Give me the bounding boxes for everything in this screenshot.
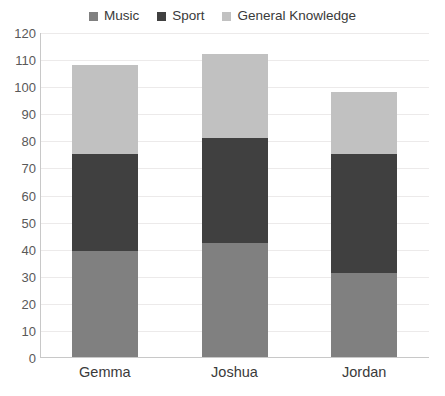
- y-tick-label: 40: [22, 242, 36, 257]
- y-tick-label: 10: [22, 323, 36, 338]
- bars-layer: [40, 33, 429, 357]
- legend-swatch-general-knowledge-icon: [222, 12, 231, 21]
- legend-item-general-knowledge[interactable]: General Knowledge: [222, 9, 356, 23]
- legend-label-music: Music: [104, 9, 139, 23]
- y-tick-label: 70: [22, 161, 36, 176]
- bar-segment-jordan-general-knowledge[interactable]: [331, 92, 397, 154]
- bar-group-gemma[interactable]: [72, 33, 138, 357]
- legend-swatch-sport-icon: [157, 12, 166, 21]
- bar-segment-joshua-music[interactable]: [202, 243, 268, 357]
- y-tick-label: 100: [14, 80, 36, 95]
- legend-item-music[interactable]: Music: [89, 9, 139, 23]
- y-tick-label: 110: [15, 53, 36, 68]
- y-tick-label: 50: [22, 215, 36, 230]
- x-tick-label-joshua: Joshua: [211, 364, 258, 380]
- bar-group-joshua[interactable]: [202, 33, 268, 357]
- bar-segment-jordan-sport[interactable]: [331, 154, 397, 273]
- bar-stack: [331, 92, 397, 357]
- legend-label-sport: Sport: [172, 9, 204, 23]
- y-tick-label: 60: [22, 188, 36, 203]
- bar-segment-gemma-sport[interactable]: [72, 154, 138, 252]
- chart-legend: Music Sport General Knowledge: [0, 4, 445, 28]
- legend-swatch-music-icon: [89, 12, 98, 21]
- y-tick-label: 80: [22, 134, 36, 149]
- legend-item-sport[interactable]: Sport: [157, 9, 204, 23]
- stacked-bar-chart: Music Sport General Knowledge 0102030405…: [0, 0, 445, 396]
- bar-segment-gemma-music[interactable]: [72, 251, 138, 357]
- bar-segment-joshua-sport[interactable]: [202, 138, 268, 244]
- y-axis: 0102030405060708090100110120: [0, 33, 36, 358]
- bar-segment-jordan-music[interactable]: [331, 273, 397, 357]
- x-tick-label-gemma: Gemma: [79, 364, 131, 380]
- bar-segment-joshua-general-knowledge[interactable]: [202, 54, 268, 138]
- bar-segment-gemma-general-knowledge[interactable]: [72, 65, 138, 154]
- bar-stack: [72, 65, 138, 358]
- legend-label-general-knowledge: General Knowledge: [237, 9, 356, 23]
- bar-group-jordan[interactable]: [331, 33, 397, 357]
- y-tick-label: 20: [22, 296, 36, 311]
- y-tick-label: 30: [22, 269, 36, 284]
- bar-stack: [202, 54, 268, 357]
- x-tick-label-jordan: Jordan: [342, 364, 386, 380]
- y-tick-label: 120: [14, 26, 36, 41]
- y-tick-label: 90: [22, 107, 36, 122]
- x-axis: GemmaJoshuaJordan: [40, 360, 429, 390]
- y-tick-label: 0: [29, 351, 36, 366]
